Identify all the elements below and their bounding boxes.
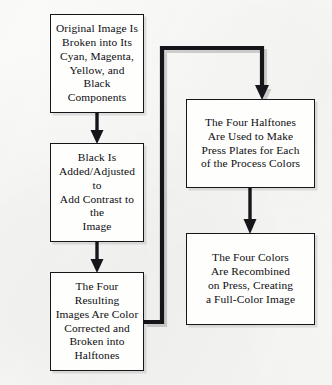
node-label: The Four Halftones Are Used to Make Pres… bbox=[197, 116, 304, 172]
node-original-image-split: Original Image Is Broken into Its Cyan, … bbox=[50, 14, 144, 113]
node-label: The Four Colors Are Recombined on Press,… bbox=[202, 251, 299, 307]
edge-plates-to-recombine bbox=[244, 188, 257, 234]
flowchart-canvas: Original Image Is Broken into Its Cyan, … bbox=[0, 0, 332, 385]
node-black-added-adjusted: Black Is Added/Adjusted to Add Contrast … bbox=[50, 143, 144, 242]
node-press-plates: The Four Halftones Are Used to Make Pres… bbox=[186, 99, 315, 188]
node-recombined-full-color: The Four Colors Are Recombined on Press,… bbox=[186, 233, 315, 325]
edge-split-to-black bbox=[91, 113, 104, 144]
node-color-corrected-halftones: The Four Resulting Images Are Color Corr… bbox=[50, 272, 144, 371]
edge-black-to-halftones bbox=[91, 242, 104, 273]
node-label: Original Image Is Broken into Its Cyan, … bbox=[51, 22, 143, 105]
node-label: Black Is Added/Adjusted to Add Contrast … bbox=[51, 151, 143, 234]
node-label: The Four Resulting Images Are Color Corr… bbox=[51, 280, 143, 363]
